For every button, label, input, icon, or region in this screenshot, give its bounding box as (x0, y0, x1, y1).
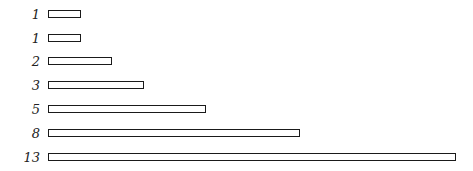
bar (48, 153, 456, 161)
bar-label: 3 (0, 81, 40, 91)
bar-label: 2 (0, 57, 40, 67)
bar-row: 2 (0, 57, 473, 67)
bar (48, 57, 112, 65)
bar (48, 81, 144, 89)
bar-row: 3 (0, 81, 473, 91)
bar (48, 10, 81, 18)
bar-row: 13 (0, 153, 473, 163)
bar-label: 5 (0, 105, 40, 115)
bar-label: 13 (0, 153, 40, 163)
bar (48, 34, 81, 42)
bar-label: 8 (0, 129, 40, 139)
bar-label: 1 (0, 34, 40, 44)
bar-row: 5 (0, 105, 473, 115)
bar-row: 1 (0, 34, 473, 44)
bar (48, 105, 206, 113)
bar-row: 1 (0, 10, 473, 20)
bar-label: 1 (0, 10, 40, 20)
bar (48, 129, 300, 137)
bar-row: 8 (0, 129, 473, 139)
